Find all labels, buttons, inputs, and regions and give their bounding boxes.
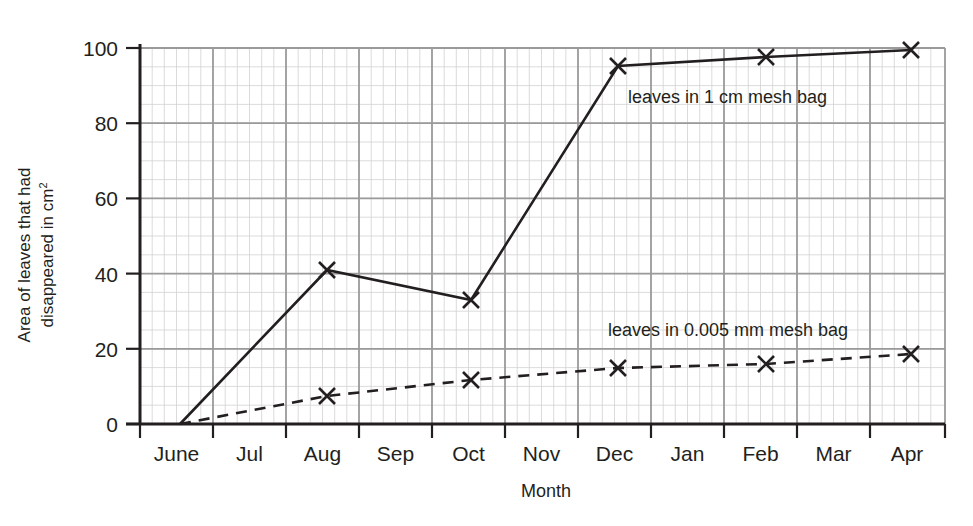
- y-tick-label-80: 80: [95, 112, 118, 135]
- x-tick-label-oct: Oct: [452, 442, 485, 465]
- y-tick-label-100: 100: [83, 37, 118, 60]
- y-axis-tick-labels: 0 20 60 40 80 100: [83, 37, 118, 436]
- chart-svg: 0 20 60 40 80 100 June Jul Aug Sep Oct N…: [0, 0, 973, 526]
- y-axis-title-superscript: 2: [37, 182, 49, 188]
- x-tick-label-mar: Mar: [815, 442, 851, 465]
- x-tick-label-sep: Sep: [377, 442, 414, 465]
- x-axis-tick-labels: June Jul Aug Sep Oct Nov Dec Jan Feb Mar…: [154, 442, 924, 465]
- x-tick-label-aug: Aug: [304, 442, 341, 465]
- x-tick-label-nov: Nov: [523, 442, 561, 465]
- y-tick-label-20: 20: [95, 338, 118, 361]
- series-label-0005mm-mesh: leaves in 0.005 mm mesh bag: [608, 320, 848, 340]
- y-tick-label-60: 60: [95, 187, 118, 210]
- x-axis-title: Month: [521, 481, 571, 501]
- y-axis-title-line2: disappeared in cm2: [37, 182, 57, 327]
- line-chart: 0 20 60 40 80 100 June Jul Aug Sep Oct N…: [0, 0, 973, 526]
- x-tick-label-june: June: [154, 442, 200, 465]
- x-tick-label-apr: Apr: [891, 442, 924, 465]
- y-axis-title: Area of leaves that had disappeared in c…: [15, 168, 57, 343]
- x-tick-label-jul: Jul: [236, 442, 263, 465]
- y-axis-title-line1: Area of leaves that had: [15, 168, 34, 343]
- y-tick-label-40: 40: [95, 263, 118, 286]
- y-tick-label-0: 0: [106, 413, 118, 436]
- x-tick-label-dec: Dec: [596, 442, 633, 465]
- y-axis-title-line2-main: disappeared in cm: [38, 189, 57, 328]
- x-tick-label-feb: Feb: [742, 442, 778, 465]
- x-axis-ticks: [140, 424, 945, 438]
- series-label-1cm-mesh: leaves in 1 cm mesh bag: [628, 87, 827, 107]
- x-tick-label-jan: Jan: [671, 442, 705, 465]
- y-axis-ticks: [126, 48, 140, 424]
